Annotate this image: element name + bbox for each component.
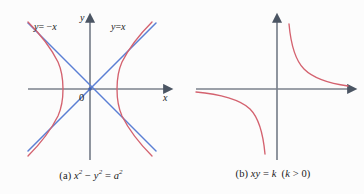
caption-b-tag: (b)	[236, 168, 249, 179]
x-axis-label-a: x	[163, 92, 167, 103]
caption-panel-a: (a) x2 − y2 = a2	[0, 168, 182, 181]
plot-area-b	[182, 0, 364, 170]
caption-panel-b: (b) xy = k(k > 0)	[182, 168, 364, 179]
caption-b-k2: k	[285, 168, 290, 179]
caption-a-tag: (a)	[59, 170, 71, 181]
y-axis-label-a: y	[80, 12, 84, 23]
caption-b-paren-close: )	[307, 168, 311, 179]
plot-area-a	[0, 0, 182, 170]
asym-pos-arg: x	[121, 21, 125, 32]
asym-neg-arg: x	[52, 21, 56, 32]
panel-hyperbola-standard: y x 0 y= −x y=x (a) x2 − y2 = a2	[0, 0, 182, 194]
caption-b-k: k	[272, 168, 277, 179]
asymptote-positive-label: y=x	[111, 21, 126, 32]
asym-neg-op: = −	[38, 21, 52, 32]
caption-a-y-exp: 2	[99, 168, 103, 176]
origin-point-a	[88, 87, 92, 91]
caption-a-x-exp: 2	[79, 168, 83, 176]
caption-b-equals: =	[263, 168, 269, 179]
caption-a-minus: −	[85, 170, 91, 181]
asymptote-negative-label: y= −x	[34, 21, 57, 32]
panel-hyperbola-rectangular: y x 0 (b) xy = k(k > 0)	[182, 0, 364, 194]
caption-a-equals: =	[105, 170, 111, 181]
figure-root: y x 0 y= −x y=x (a) x2 − y2 = a2	[0, 0, 364, 194]
hyperbola-quadrant-III	[196, 92, 265, 154]
origin-label-a: 0	[79, 92, 84, 103]
hyperbola-quadrant-I	[289, 24, 348, 86]
caption-b-xy: xy	[251, 168, 261, 179]
caption-a-a-exp: 2	[119, 168, 123, 176]
caption-b-gt: >	[293, 168, 299, 179]
